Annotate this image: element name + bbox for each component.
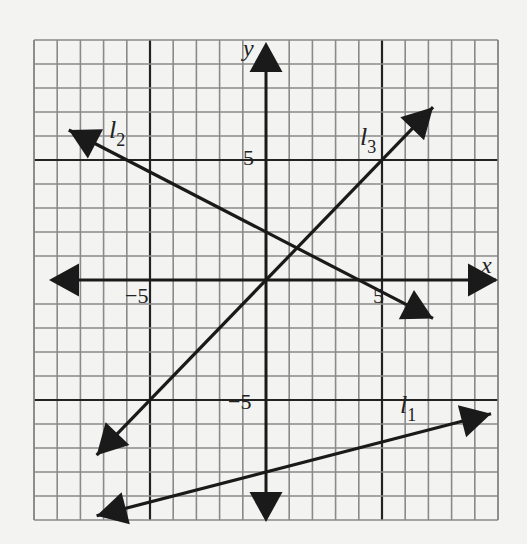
y-axis-up-arrow-icon <box>250 42 283 72</box>
y-axis-down-arrow-icon <box>250 492 283 522</box>
tick-label-y-neg5: −5 <box>228 389 251 414</box>
tick-label-x-5: 5 <box>373 283 384 308</box>
x-axis-label: x <box>480 252 492 278</box>
y-axis-label: y <box>241 35 254 61</box>
line-l1 <box>97 405 491 524</box>
tick-label-x-neg5: −5 <box>125 283 148 308</box>
line-label-l3: l3 <box>360 122 376 157</box>
tick-label-y-5: 5 <box>243 145 254 170</box>
line-label-l1: l1 <box>400 390 416 425</box>
x-axis-left-arrow-icon <box>49 264 79 297</box>
coordinate-plane: y x −5 5 5 −5 l2 l3 l1 <box>0 0 527 544</box>
line-label-l2: l2 <box>109 115 125 150</box>
